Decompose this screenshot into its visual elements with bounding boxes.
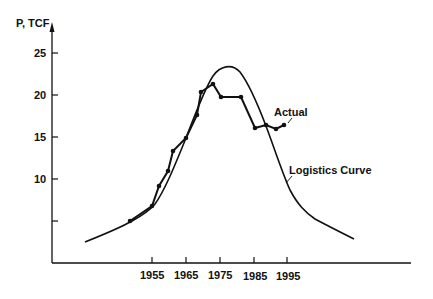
x-tick-label-1995: 1995 [276,270,300,282]
x-ticks [152,257,287,263]
actual-line [130,84,284,221]
y-axis-title: P, TCF [16,17,50,29]
annotation-actual-pointer [288,118,292,123]
annotation-logistics-curve: Logistics Curve [289,164,372,176]
annotation-logistics-pointer [286,176,292,183]
y-tick-label-10: 10 [34,173,46,185]
chart: P, TCF 25 20 15 10 1955 1965 1975 1985 1… [0,0,433,299]
annotation-actual: Actual [274,106,308,118]
y-axis-arrow-icon [50,22,55,32]
x-tick-label-1985: 1985 [243,270,267,282]
y-tick-label-15: 15 [34,131,46,143]
y-tick-label-20: 20 [34,89,46,101]
x-tick-label-1965: 1965 [174,269,198,281]
y-ticks [52,53,58,221]
actual-markers [128,82,287,224]
x-tick-label-1975: 1975 [208,269,232,281]
x-tick-label-1955: 1955 [140,269,164,281]
y-tick-label-25: 25 [34,47,46,59]
